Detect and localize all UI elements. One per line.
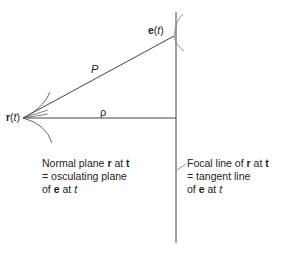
right-caption-line1: Focal line of r at t [187, 157, 269, 170]
left-caption-line1: Normal plane r at t [42, 157, 130, 170]
right-caption-line3: of e at t [187, 183, 269, 196]
label-rho: ρ [100, 106, 106, 119]
paren-close: ) [160, 24, 164, 36]
right-caption-line2: = tangent line [187, 170, 269, 183]
diagram-canvas: e(t) r(t) P ρ Normal plane r at t = oscu… [0, 0, 293, 256]
left-caption: Normal plane r at t = osculating plane o… [42, 157, 130, 196]
paren-close: ) [17, 111, 21, 123]
label-r-t: r(t) [6, 111, 20, 124]
diagram-svg [0, 0, 293, 256]
left-caption-line2: = osculating plane [42, 170, 130, 183]
right-caption: Focal line of r at t = tangent line of e… [187, 157, 269, 196]
curve-r-lower [23, 118, 52, 143]
label-P: P [91, 63, 98, 76]
label-e-t: e(t) [148, 24, 164, 37]
segment-P [23, 36, 174, 118]
curve-e-upper [174, 14, 183, 36]
left-caption-line3: of e at t [42, 183, 130, 196]
pointer-line [177, 164, 186, 170]
